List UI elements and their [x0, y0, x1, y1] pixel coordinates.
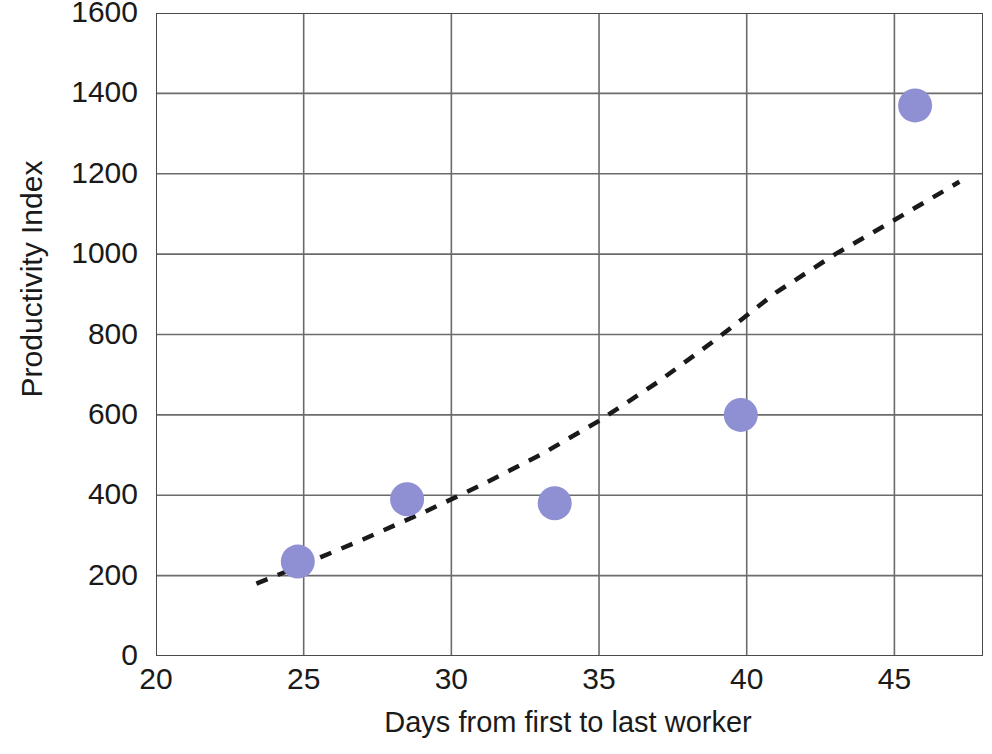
data-markers	[281, 88, 932, 578]
data-point-marker	[281, 545, 315, 579]
x-tick-label: 35	[554, 664, 644, 694]
y-tick-label: 1200	[0, 158, 138, 188]
y-tick-label: 800	[0, 319, 138, 349]
y-tick-label: 400	[0, 479, 138, 509]
trendline	[256, 182, 959, 584]
y-tick-label: 600	[0, 399, 138, 429]
scatter-chart: Productivity Index 020040060080010001200…	[0, 0, 992, 754]
trendline-path	[256, 182, 959, 584]
plot-area	[156, 13, 983, 656]
x-tick-label: 45	[849, 664, 939, 694]
x-tick-label: 30	[406, 664, 496, 694]
data-point-marker	[898, 88, 932, 122]
plot-svg	[156, 13, 983, 656]
data-point-marker	[390, 482, 424, 516]
x-axis-title: Days from first to last worker	[150, 706, 986, 739]
y-tick-label: 1400	[0, 77, 138, 107]
data-point-marker	[538, 486, 572, 520]
horizontal-gridlines	[156, 13, 983, 576]
y-tick-label: 1000	[0, 238, 138, 268]
data-point-marker	[724, 398, 758, 432]
x-tick-label: 20	[111, 664, 201, 694]
x-tick-label: 40	[702, 664, 792, 694]
x-tick-label: 25	[259, 664, 349, 694]
y-tick-label: 200	[0, 560, 138, 590]
y-tick-label: 1600	[0, 0, 138, 27]
